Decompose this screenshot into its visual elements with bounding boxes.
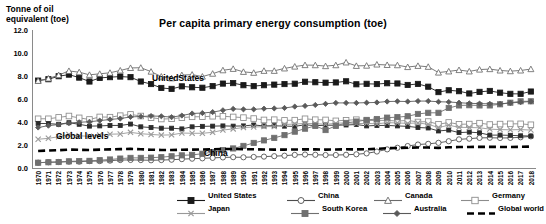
x-tick-label: 1998 bbox=[322, 171, 329, 185]
x-tick-label: 1981 bbox=[148, 171, 155, 185]
chart-title: Per capita primary energy consumption (t… bbox=[0, 17, 546, 29]
x-tick-label: 2016 bbox=[507, 171, 514, 185]
x-tick-label: 1973 bbox=[66, 171, 73, 185]
x-tick-label: 1972 bbox=[55, 171, 62, 185]
x-axis-line bbox=[32, 168, 536, 169]
x-tick-label: 1987 bbox=[209, 171, 216, 185]
legend-swatch-square-open-icon bbox=[460, 191, 490, 200]
x-tick-label: 1997 bbox=[312, 171, 319, 185]
x-tick-label: 1991 bbox=[251, 171, 258, 185]
y-tick-label: 4.0 bbox=[2, 118, 28, 127]
x-tick-label: 2001 bbox=[353, 171, 360, 185]
legend-item-australia[interactable]: Australia bbox=[382, 204, 447, 213]
x-tick-label: 1978 bbox=[117, 171, 124, 185]
x-tick-label: 1985 bbox=[189, 171, 196, 185]
legend-item-global-world[interactable]: Global world bbox=[466, 204, 544, 213]
legend-swatch-circle-open-icon bbox=[286, 191, 316, 200]
x-tick-label: 1995 bbox=[292, 171, 299, 185]
x-tick-label: 1996 bbox=[302, 171, 309, 185]
x-tick-label: 1994 bbox=[281, 171, 288, 185]
x-tick-label: 2005 bbox=[394, 171, 401, 185]
legend-swatch-square-filled-icon bbox=[290, 204, 320, 213]
x-tick-label: 1975 bbox=[86, 171, 93, 185]
x-tick-label: 2013 bbox=[476, 171, 483, 185]
x-tick-label: 2007 bbox=[415, 171, 422, 185]
y-tick-label: 6.0 bbox=[2, 95, 28, 104]
y-tick-label: 10.0 bbox=[2, 49, 28, 58]
x-tick-label: 1976 bbox=[97, 171, 104, 185]
legend-swatch-square-filled-icon bbox=[176, 191, 206, 200]
chart-legend: United StatesChinaCanadaGermanyUnited Ki… bbox=[0, 191, 546, 224]
x-tick-label: 2017 bbox=[517, 171, 524, 185]
legend-label: United States bbox=[208, 191, 257, 200]
legend-item-germany[interactable]: Germany bbox=[460, 191, 525, 200]
x-tick-label: 2018 bbox=[528, 171, 535, 185]
x-tick-label: 2014 bbox=[487, 171, 494, 185]
chart-container: Tonne of oil equivalent (toe) Per capita… bbox=[0, 0, 546, 224]
x-tick-label: 1984 bbox=[179, 171, 186, 185]
x-tick-label: 2015 bbox=[497, 171, 504, 185]
legend-swatch-triangle-open-icon bbox=[373, 191, 403, 200]
legend-item-japan[interactable]: Japan bbox=[176, 204, 230, 213]
x-tick-label: 1971 bbox=[45, 171, 52, 185]
x-tick-label: 1970 bbox=[35, 171, 42, 185]
annotation-china: China bbox=[204, 148, 228, 158]
x-tick-label: 2004 bbox=[384, 171, 391, 185]
annotation-united-states: UnitedStates bbox=[152, 73, 204, 83]
x-tick-label: 1989 bbox=[230, 171, 237, 185]
x-tick-label: 2012 bbox=[466, 171, 473, 185]
x-tick-label: 1977 bbox=[107, 171, 114, 185]
x-tick-label: 1982 bbox=[158, 171, 165, 185]
y-tick-label: 8.0 bbox=[2, 72, 28, 81]
legend-label: Australia bbox=[414, 204, 447, 213]
x-tick-label: 1999 bbox=[333, 171, 340, 185]
x-tick-label: 2006 bbox=[404, 171, 411, 185]
x-tick-label: 2010 bbox=[446, 171, 453, 185]
legend-label: South Korea bbox=[322, 204, 367, 213]
x-tick-label: 1980 bbox=[138, 171, 145, 185]
y-tick-label: 12.0 bbox=[2, 26, 28, 35]
x-tick-label: 2009 bbox=[435, 171, 442, 185]
legend-label: Canada bbox=[405, 191, 432, 200]
series-svg bbox=[33, 30, 536, 168]
legend-item-united-states[interactable]: United States bbox=[176, 191, 257, 200]
y-tick-label: 0.0 bbox=[2, 164, 28, 173]
legend-swatch-none-icon bbox=[466, 204, 496, 213]
legend-label: Japan bbox=[208, 204, 230, 213]
x-tick-label: 2000 bbox=[343, 171, 350, 185]
x-tick-label: 1974 bbox=[76, 171, 83, 185]
x-tick-label: 1992 bbox=[261, 171, 268, 185]
annotation-global-levels: Global levels bbox=[56, 131, 108, 141]
x-tick-label: 1979 bbox=[127, 171, 134, 185]
legend-label: Global world bbox=[498, 204, 544, 213]
x-tick-label: 1986 bbox=[199, 171, 206, 185]
x-tick-label: 2003 bbox=[374, 171, 381, 185]
x-tick-label: 1993 bbox=[271, 171, 278, 185]
x-tick-label: 2002 bbox=[363, 171, 370, 185]
legend-swatch-diamond-filled-icon bbox=[382, 204, 412, 213]
y-tick-label: 2.0 bbox=[2, 141, 28, 150]
legend-item-china[interactable]: China bbox=[286, 191, 339, 200]
legend-item-canada[interactable]: Canada bbox=[373, 191, 432, 200]
x-tick-label: 1988 bbox=[220, 171, 227, 185]
series-global-world bbox=[38, 147, 531, 151]
plot-area bbox=[33, 30, 536, 168]
legend-swatch-x-mark-icon bbox=[176, 204, 206, 213]
legend-label: Germany bbox=[492, 191, 525, 200]
legend-item-south-korea[interactable]: South Korea bbox=[290, 204, 367, 213]
x-tick-label: 2008 bbox=[425, 171, 432, 185]
legend-label: China bbox=[318, 191, 339, 200]
x-tick-label: 2011 bbox=[456, 171, 463, 185]
x-tick-label: 1990 bbox=[240, 171, 247, 185]
x-tick-label: 1983 bbox=[168, 171, 175, 185]
